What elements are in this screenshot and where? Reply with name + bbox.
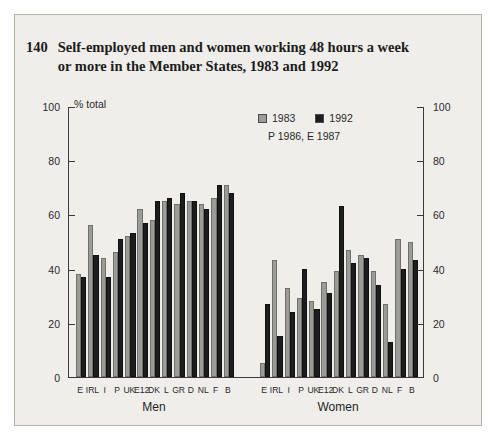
bar-men-D-1992 (192, 201, 197, 377)
y-tick-left-100 (69, 107, 75, 108)
bar-men-L-1992 (167, 198, 172, 377)
x-axis-label-women-B: B (401, 385, 423, 395)
bar-men-I-1992 (106, 277, 111, 377)
y-tick-left-20 (69, 324, 75, 325)
bar-women-IRL-1992 (277, 336, 282, 377)
y-tick-right-20 (417, 324, 423, 325)
bar-men-F-1992 (217, 185, 222, 377)
bar-women-NL-1992 (388, 342, 393, 377)
y-axis-label-left-0: 0 (30, 373, 60, 383)
y-tick-left-60 (69, 215, 75, 216)
bar-men-E-1992 (81, 277, 86, 377)
bars-layer (69, 107, 423, 377)
bar-men-DK-1992 (155, 201, 160, 377)
y-axis-label-left-60: 60 (30, 210, 60, 220)
group-label-men: Men (74, 400, 234, 414)
bar-women-P-1992 (302, 269, 307, 377)
y-axis-label-left-40: 40 (30, 265, 60, 275)
y-axis-label-right-60: 60 (433, 210, 463, 220)
bar-women-I-1992 (290, 312, 295, 377)
y-tick-left-80 (69, 161, 75, 162)
bar-women-DK-1992 (339, 206, 344, 377)
x-axis-label-men-B: B (217, 385, 239, 395)
y-axis-label-right-100: 100 (433, 102, 463, 112)
y-axis-label-left-20: 20 (30, 319, 60, 329)
figure-page: 140 Self-employed men and women working … (0, 0, 500, 445)
bar-women-F-1992 (401, 269, 406, 377)
bar-men-B-1992 (229, 193, 234, 377)
plot-area (68, 107, 424, 378)
group-label-women: Women (258, 400, 418, 414)
y-axis-label-right-0: 0 (433, 373, 463, 383)
page-title: Self-employed men and women working 48 h… (58, 38, 418, 76)
y-axis-label-left-100: 100 (30, 102, 60, 112)
y-tick-left-40 (69, 270, 75, 271)
bar-men-IRL-1992 (93, 255, 98, 377)
y-tick-right-80 (417, 161, 423, 162)
bar-men-GR-1992 (180, 193, 185, 377)
y-tick-right-40 (417, 270, 423, 271)
bar-men-E12-1992 (143, 223, 148, 377)
figure-number: 140 (26, 38, 48, 57)
bar-women-GR-1992 (364, 258, 369, 377)
bar-women-UK-1992 (314, 309, 319, 377)
bar-women-E-1992 (265, 304, 270, 377)
bar-men-NL-1992 (204, 209, 209, 377)
y-axis-label-right-40: 40 (433, 265, 463, 275)
y-tick-right-60 (417, 215, 423, 216)
figure-title-block: 140 Self-employed men and women working … (26, 38, 456, 76)
bar-women-B-1992 (413, 260, 418, 377)
bar-women-E12-1992 (327, 293, 332, 377)
bar-women-L-1992 (351, 263, 356, 377)
y-axis-label-left-80: 80 (30, 156, 60, 166)
y-axis-label-right-20: 20 (433, 319, 463, 329)
y-tick-right-100 (417, 107, 423, 108)
bar-women-D-1992 (376, 285, 381, 377)
bar-men-P-1992 (118, 239, 123, 377)
y-axis-label-right-80: 80 (433, 156, 463, 166)
bar-men-UK-1992 (130, 233, 135, 377)
